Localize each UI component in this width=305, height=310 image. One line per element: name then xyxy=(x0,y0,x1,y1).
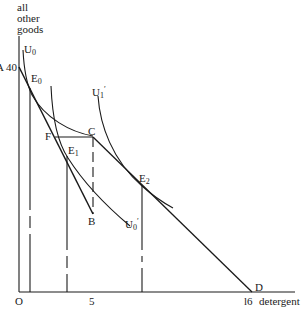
x-tick-5: 5 xyxy=(89,296,95,307)
label-u1-prime: U1′ xyxy=(92,84,106,101)
y-tick-value: 40 xyxy=(6,61,17,73)
label-b: B xyxy=(88,216,95,227)
label-u0: U0 xyxy=(24,44,36,58)
indifference-curve-u0-prime xyxy=(51,86,130,226)
y-tick-a-40: A 40 xyxy=(0,62,17,73)
point-label-a: A xyxy=(0,61,3,73)
indifference-curve-u0 xyxy=(23,50,93,136)
y-axis-label: all other goods xyxy=(17,2,43,35)
label-e1: E1 xyxy=(68,145,79,159)
label-c: C xyxy=(88,126,95,137)
label-f: F xyxy=(45,131,51,142)
x-axis-label: detergent xyxy=(259,296,300,307)
label-u0-prime: U0′ xyxy=(125,216,139,233)
label-d: D xyxy=(255,282,263,293)
x-tick-16: l6 xyxy=(244,296,253,307)
label-e2: E2 xyxy=(139,173,150,187)
origin-label: O xyxy=(15,296,23,307)
label-e0: E0 xyxy=(31,73,42,87)
y-axis-label-line: goods xyxy=(17,24,43,35)
consumer-choice-diagram xyxy=(0,0,305,310)
